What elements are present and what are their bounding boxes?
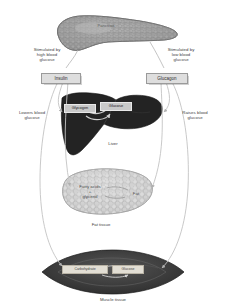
liver-glycogen-label: Glycogen — [64, 104, 96, 113]
muscle-carbohydrate-label: Carbohydrate — [62, 265, 108, 274]
muscle-glucose-label: Glucose — [112, 265, 144, 274]
pancreas-label: Pancreas — [84, 24, 128, 29]
insulin-effect-label: Lowers blood glucose — [4, 110, 60, 120]
blood-glucose-regulation-diagram: Pancreas Stimulated by high blood glucos… — [0, 0, 226, 308]
fat-fatty-acids-label: Fatty acids + glycerol — [72, 184, 108, 199]
glucagon-effect-label: Raises blood glucose — [167, 110, 223, 120]
fat-tissue-caption: Fat tissue — [76, 222, 126, 227]
glucagon-stimulus-label: Stimulated by low blood glucose — [150, 47, 212, 62]
glucagon-box: Glucagon — [146, 73, 188, 84]
muscle-tissue-caption: Muscle tissue — [82, 297, 144, 302]
liver-caption: Liver — [96, 141, 130, 146]
insulin-stimulus-label: Stimulated by high blood glucose — [16, 47, 78, 62]
pancreas-illustration — [58, 16, 178, 51]
fat-fat-label: Fat — [126, 191, 146, 196]
insulin-box: Insulin — [41, 73, 81, 84]
liver-glucose-label: Glucose — [100, 102, 132, 111]
